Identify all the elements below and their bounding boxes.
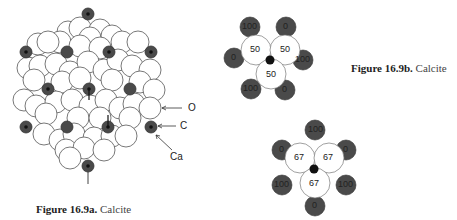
o-value: 50 xyxy=(250,44,260,54)
figure-16-9a-caption: Figure 16.9a. Calcite xyxy=(36,203,131,215)
caption-title: Calcite xyxy=(416,62,447,74)
ca-value: 0 xyxy=(279,144,284,154)
o-value: 67 xyxy=(294,152,304,162)
caption-title: Calcite xyxy=(100,203,131,215)
figure-16-9a-structure xyxy=(13,8,182,184)
ca-value: 0 xyxy=(283,21,288,31)
ca-value: 100 xyxy=(242,21,257,31)
oxygen-label: O xyxy=(188,102,196,113)
carbon-label: C xyxy=(180,120,187,131)
ca-value: 0 xyxy=(343,144,348,154)
caption-number: Figure 16.9b. xyxy=(351,62,413,74)
ca-value: 100 xyxy=(338,179,353,189)
ca-value: 100 xyxy=(295,54,310,64)
ca-value: 0 xyxy=(231,52,236,62)
ca-value: 100 xyxy=(274,179,289,189)
calcite-figures xyxy=(0,0,457,220)
figure-16-9b-caption: Figure 16.9b. Calcite xyxy=(351,62,447,74)
o-value: 67 xyxy=(309,178,319,188)
o-value: 67 xyxy=(323,152,333,162)
ca-value: 100 xyxy=(243,83,258,93)
ca-value: 0 xyxy=(282,84,287,94)
ca-value: 100 xyxy=(308,124,323,134)
ca-value: 0 xyxy=(312,200,317,210)
calcium-label: Ca xyxy=(170,151,183,162)
o-value: 50 xyxy=(280,44,290,54)
o-value: 50 xyxy=(266,69,276,79)
caption-number: Figure 16.9a. xyxy=(36,203,97,215)
